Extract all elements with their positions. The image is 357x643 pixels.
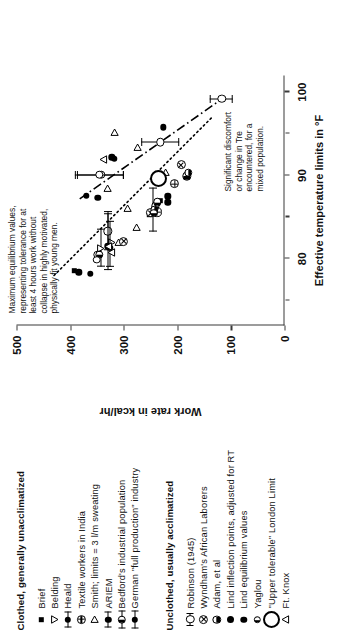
y-tick (70, 325, 71, 330)
legend-item-bedford[interactable]: Bedford's industrial population (114, 467, 127, 630)
data-point (169, 178, 179, 188)
rotated-figure-wrapper: Clothed, generally unacclimatized Brief … (0, 0, 357, 643)
filled-square-icon (34, 608, 47, 630)
y-tick (177, 325, 178, 330)
lower-discomfort-line (54, 117, 212, 275)
legend-item-label: Lind inflection points, adjusted for RT (224, 449, 236, 608)
data-point (118, 236, 128, 246)
y-tick-label: 100 (224, 335, 236, 354)
legend-clothed-group: Clothed, generally unacclimatized Brief … (14, 467, 141, 630)
data-point (98, 154, 108, 164)
filled-circle-bold-icon (237, 608, 250, 630)
x-tick-label: 80 (295, 252, 307, 265)
legend-item-label: Smith; limits = 3 l/m sweating (88, 483, 100, 608)
filled-circle-icon (223, 608, 236, 630)
legend-item-robinson[interactable]: Robinson (1945) (183, 449, 196, 630)
data-point (106, 247, 116, 257)
data-point (91, 254, 101, 264)
large-open-circle-icon (264, 608, 277, 630)
legend-item-ariem[interactable]: ARIEM (101, 467, 114, 630)
x-tick-label: 90 (295, 169, 307, 182)
x-axis-line (283, 75, 284, 325)
legend-item-wyndham[interactable]: Wyndham's African Laborers (196, 449, 209, 630)
small-open-circle-icon (250, 608, 263, 630)
y-tick-label: 500 (10, 335, 22, 354)
data-point (92, 193, 102, 203)
legend-item-label: Adam, et al (210, 559, 222, 608)
y-tick-label: 200 (171, 335, 183, 354)
legend-item-adam[interactable]: Adam, et al (210, 449, 223, 630)
x-minor-tick (285, 299, 289, 300)
data-point (216, 93, 226, 103)
circle-errorbar-icon (183, 608, 196, 630)
legend-unclothed-group: Unclothed, usually acclimatized Robinson… (163, 449, 292, 630)
data-point (155, 137, 165, 147)
legend-item-german-industry[interactable]: German "full production" industry (128, 467, 141, 630)
legend-item-lind-inflection[interactable]: Lind inflection points, adjusted for RT (223, 449, 236, 630)
y-tick (284, 325, 285, 330)
legend-item-label: Lind equilibrium values (237, 510, 249, 608)
y-tick-label: 0 (278, 335, 290, 341)
open-circle-errorbar-icon (61, 608, 74, 630)
legend-item-label: German "full production" industry (128, 467, 140, 608)
circle-x-icon (197, 608, 210, 630)
data-point (122, 203, 132, 213)
data-point (162, 197, 172, 207)
circle-plus-icon (74, 608, 87, 630)
data-point (73, 267, 83, 277)
x-axis-title: Effective temperature limits in °F (312, 114, 324, 285)
legend-unclothed-title: Unclothed, usually acclimatized (163, 449, 174, 630)
plot-area: 80901000100200300400500 (16, 75, 284, 325)
legend-item-brief[interactable]: Brief (34, 467, 47, 630)
x-tick (284, 174, 289, 175)
data-point (81, 190, 91, 200)
legend-item-london-limit[interactable]: "Upper tolerable" London Limit (263, 449, 278, 630)
legend-item-label: Textile workers in India (75, 510, 87, 608)
legend-item-label: Wyndham's African Laborers (197, 486, 209, 608)
x-minor-tick (285, 215, 289, 216)
legend-item-belding[interactable]: Belding (47, 467, 60, 630)
data-point (148, 208, 158, 218)
legend-item-label: "Upper tolerable" London Limit (265, 478, 277, 609)
legend-item-label: Ft. Knox (279, 572, 291, 608)
half-circle-errorbar-icon (115, 608, 128, 630)
y-tick (123, 325, 124, 330)
y-axis-title: Work rate in kcal/hr (99, 405, 201, 417)
y-tick (230, 325, 231, 330)
y-axis-line (16, 324, 284, 325)
legend-item-label: Brief (35, 588, 47, 608)
open-triangle-down-icon (48, 608, 61, 630)
data-point (85, 268, 95, 278)
data-point (183, 168, 193, 178)
figure-canvas: Clothed, generally unacclimatized Brief … (0, 0, 357, 643)
legend-item-ft-knox[interactable]: Ft. Knox (278, 449, 291, 630)
data-point (109, 127, 119, 137)
open-triangle-right-icon (88, 608, 101, 630)
data-point (131, 223, 141, 233)
legend-clothed-title: Clothed, generally unacclimatized (14, 467, 25, 630)
legend-item-smith[interactable]: Smith; limits = 3 l/m sweating (88, 467, 101, 630)
legend-item-heald[interactable]: Heald (61, 467, 74, 630)
x-minor-tick (285, 132, 289, 133)
y-tick (16, 325, 17, 330)
open-triangle-up-icon (279, 608, 292, 630)
half-circle-bottom-icon (210, 608, 223, 630)
legend-item-label: ARIEM (102, 578, 114, 608)
data-point (158, 122, 168, 132)
data-point (102, 183, 112, 193)
legend-item-label: Bedford's industrial population (115, 479, 127, 608)
legend-item-yaglou[interactable]: Yaglou (250, 449, 263, 630)
data-point (153, 173, 163, 183)
x-tick (284, 257, 289, 258)
legend-item-label: Belding (48, 576, 60, 608)
x-tick (284, 90, 289, 91)
open-circle-errorbar2-icon (128, 608, 141, 630)
legend-item-label: Robinson (1945) (184, 537, 196, 608)
x-tick-label: 100 (295, 82, 307, 101)
legend-item-label: Yaglou (251, 579, 263, 608)
legend-item-textile-india[interactable]: Textile workers in India (74, 467, 87, 630)
y-tick-label: 300 (117, 335, 129, 354)
legend-item-lind-equilibrium[interactable]: Lind equilibrium values (237, 449, 250, 630)
legend-item-label: Heald (61, 583, 73, 608)
data-point (94, 169, 104, 179)
